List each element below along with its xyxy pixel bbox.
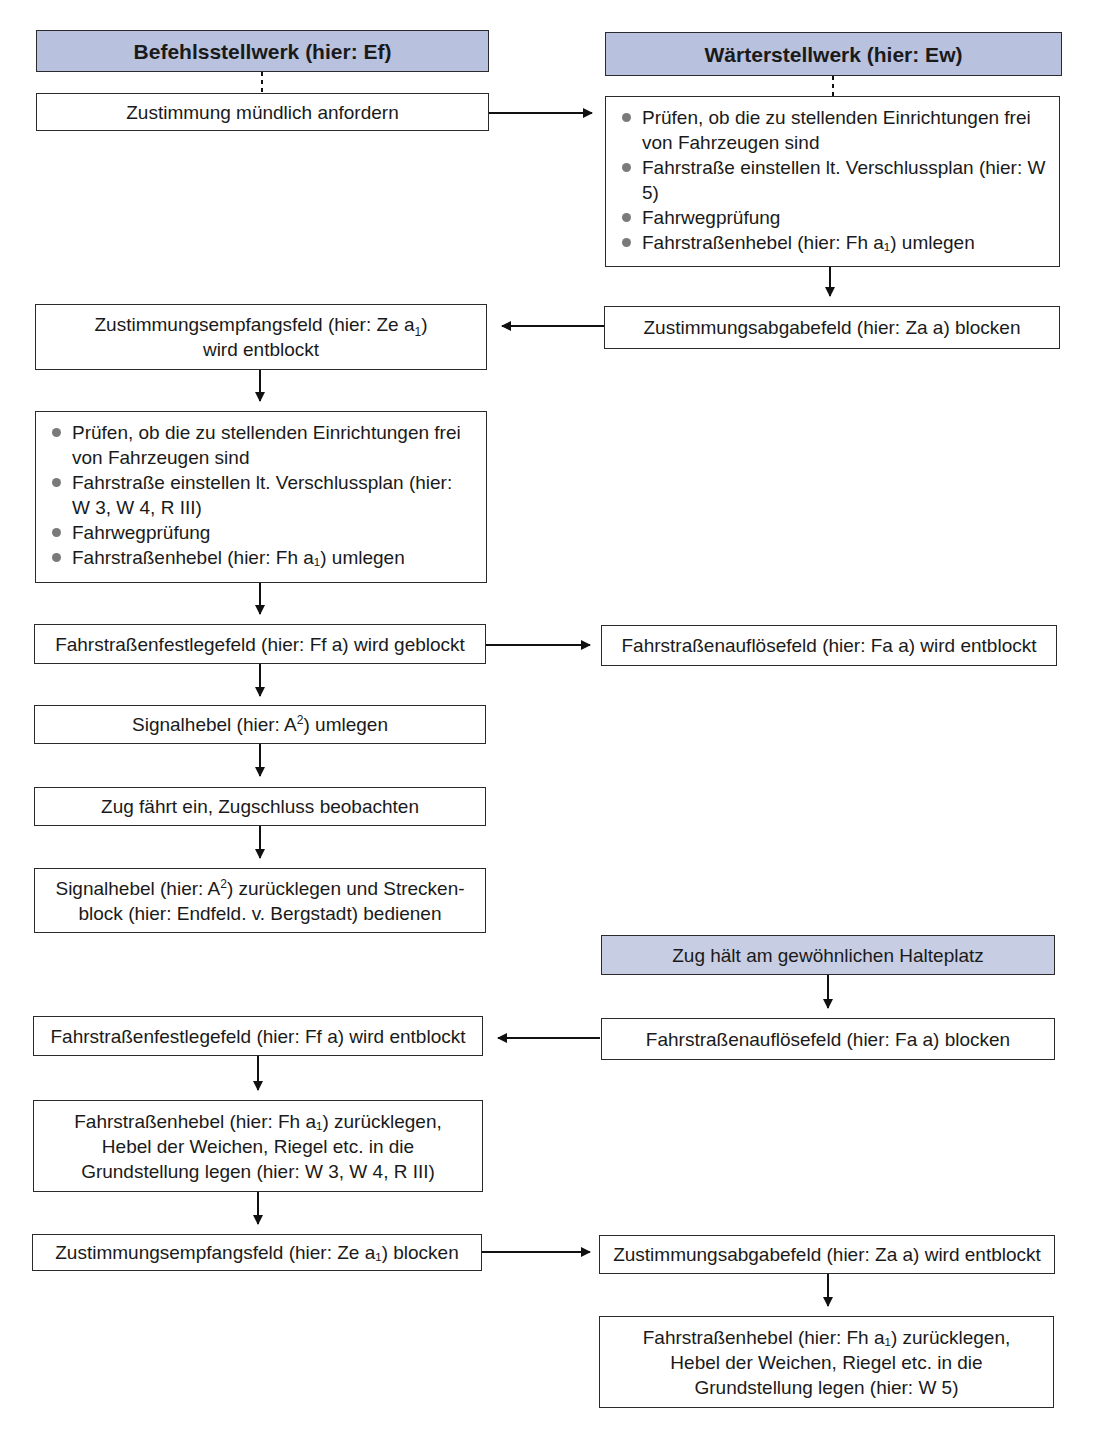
step-text: Fahrstraßenauflösefeld (hier: Fa a) bloc… bbox=[646, 1027, 1010, 1052]
checklist: Prüfen, ob die zu stellenden Einrichtung… bbox=[50, 420, 474, 570]
step-za-blocken: Zustimmungsabgabefeld (hier: Za a) block… bbox=[604, 306, 1060, 349]
list-item: Fahrstraße einstellen lt. Verschlussplan… bbox=[50, 470, 474, 520]
step-text: Fahrstraßenfestlegefeld (hier: Ff a) wir… bbox=[50, 1024, 465, 1049]
step-text-line1: Signalhebel (hier: A2) zurücklegen und S… bbox=[55, 876, 464, 901]
list-item: Fahrstraßenhebel (hier: Fh a₁) umlegen bbox=[50, 545, 474, 570]
list-item: Fahrwegprüfung bbox=[620, 205, 1047, 230]
header-befehlsstellwerk: Befehlsstellwerk (hier: Ef) bbox=[36, 30, 489, 72]
header-right-label: Wärterstellwerk (hier: Ew) bbox=[705, 42, 963, 67]
step-ff-entblockt: Fahrstraßenfestlegefeld (hier: Ff a) wir… bbox=[33, 1016, 483, 1056]
list-item: Fahrstraße einstellen lt. Verschlussplan… bbox=[620, 155, 1047, 205]
step-text-line3: Grundstellung legen (hier: W 5) bbox=[694, 1375, 958, 1400]
step-text: Signalhebel (hier: A2) umlegen bbox=[132, 712, 388, 737]
step-left-checklist: Prüfen, ob die zu stellenden Einrichtung… bbox=[35, 411, 487, 583]
step-text: Zustimmungsabgabefeld (hier: Za a) wird … bbox=[613, 1242, 1041, 1267]
step-text-line2: block (hier: Endfeld. v. Bergstadt) bedi… bbox=[79, 901, 442, 926]
step-text-line2: Hebel der Weichen, Riegel etc. in die bbox=[670, 1350, 982, 1375]
checklist: Prüfen, ob die zu stellenden Einrichtung… bbox=[620, 105, 1047, 255]
step-zug-faehrt-ein: Zug fährt ein, Zugschluss beobachten bbox=[34, 787, 486, 826]
step-ze-entblockt: Zustimmungsempfangsfeld (hier: Ze a1) wi… bbox=[35, 304, 487, 370]
step-text: Zustimmung mündlich anfordern bbox=[126, 100, 398, 125]
step-text-line1: Zustimmungsempfangsfeld (hier: Ze a1) bbox=[95, 312, 428, 337]
header-left-label: Befehlsstellwerk (hier: Ef) bbox=[134, 39, 392, 64]
step-text: Zustimmungsempfangsfeld (hier: Ze a₁) bl… bbox=[55, 1240, 458, 1265]
step-text-line1: Fahrstraßenhebel (hier: Fh a₁) zurückleg… bbox=[643, 1325, 1011, 1350]
step-text: Zug hält am gewöhnlichen Halteplatz bbox=[672, 943, 984, 968]
step-right-checklist: Prüfen, ob die zu stellenden Einrichtung… bbox=[605, 96, 1060, 267]
step-right-grundstellung: Fahrstraßenhebel (hier: Fh a₁) zurückleg… bbox=[599, 1316, 1054, 1408]
step-zug-haelt: Zug hält am gewöhnlichen Halteplatz bbox=[601, 935, 1055, 975]
step-text: Zustimmungsabgabefeld (hier: Za a) block… bbox=[643, 315, 1020, 340]
step-request-consent: Zustimmung mündlich anfordern bbox=[36, 93, 489, 131]
step-text-line3: Grundstellung legen (hier: W 3, W 4, R I… bbox=[81, 1159, 435, 1184]
step-signal-umlegen: Signalhebel (hier: A2) umlegen bbox=[34, 705, 486, 744]
step-za-entblockt: Zustimmungsabgabefeld (hier: Za a) wird … bbox=[599, 1235, 1055, 1274]
step-text-line2: wird entblockt bbox=[203, 337, 319, 362]
step-fa-entblockt: Fahrstraßenauflösefeld (hier: Fa a) wird… bbox=[601, 625, 1057, 666]
step-signal-zuruecklegen: Signalhebel (hier: A2) zurücklegen und S… bbox=[34, 868, 486, 933]
step-ff-geblockt: Fahrstraßenfestlegefeld (hier: Ff a) wir… bbox=[34, 624, 486, 664]
step-text-line1: Fahrstraßenhebel (hier: Fh a₁) zurückleg… bbox=[74, 1109, 442, 1134]
step-text: Fahrstraßenfestlegefeld (hier: Ff a) wir… bbox=[55, 632, 465, 657]
list-item: Fahrstraßenhebel (hier: Fh a₁) umlegen bbox=[620, 230, 1047, 255]
step-fa-blocken: Fahrstraßenauflösefeld (hier: Fa a) bloc… bbox=[601, 1018, 1055, 1060]
list-item: Fahrwegprüfung bbox=[50, 520, 474, 545]
step-text: Fahrstraßenauflösefeld (hier: Fa a) wird… bbox=[621, 633, 1036, 658]
step-left-grundstellung: Fahrstraßenhebel (hier: Fh a₁) zurückleg… bbox=[33, 1100, 483, 1192]
step-text-line2: Hebel der Weichen, Riegel etc. in die bbox=[102, 1134, 414, 1159]
list-item: Prüfen, ob die zu stellenden Einrichtung… bbox=[50, 420, 474, 470]
list-item: Prüfen, ob die zu stellenden Einrichtung… bbox=[620, 105, 1047, 155]
step-ze-blocken: Zustimmungsempfangsfeld (hier: Ze a₁) bl… bbox=[32, 1234, 482, 1271]
step-text: Zug fährt ein, Zugschluss beobachten bbox=[101, 794, 419, 819]
header-waerterstellwerk: Wärterstellwerk (hier: Ew) bbox=[605, 32, 1062, 76]
